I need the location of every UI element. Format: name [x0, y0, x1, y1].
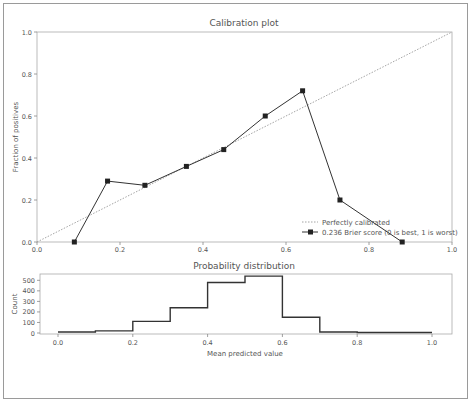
bottom-y-ticks: 0100200300400500 [23, 277, 40, 338]
y-tick-label: 0.6 [22, 113, 32, 121]
y-tick-label: 500 [23, 277, 35, 285]
y-tick-label: 400 [23, 287, 35, 295]
y-tick-label: 0 [31, 330, 35, 338]
calibration-plot: Calibration plot Fraction of positives 0… [12, 18, 458, 254]
calibration-plot-title: Calibration plot [209, 18, 279, 28]
data-point-marker [337, 198, 342, 203]
x-tick-label: 1.0 [447, 246, 457, 254]
x-tick-label: 0.0 [32, 246, 42, 254]
x-tick-label: 0.8 [364, 246, 374, 254]
x-tick-label: 0.0 [53, 339, 63, 347]
bottom-y-axis-label: Count [11, 293, 19, 314]
probability-distribution-plot: Probability distribution Count Mean pred… [11, 261, 452, 358]
top-x-ticks: 0.00.20.40.60.81.0 [32, 242, 457, 254]
data-point-marker [142, 183, 147, 188]
distribution-plot-title: Probability distribution [193, 261, 295, 271]
data-point-marker [400, 240, 405, 245]
data-point-marker [72, 240, 77, 245]
x-tick-label: 0.6 [281, 246, 291, 254]
legend-square-marker-icon [308, 230, 313, 235]
perfectly-calibrated-line [37, 32, 452, 242]
y-tick-label: 0.4 [22, 155, 32, 163]
y-tick-label: 100 [23, 319, 35, 327]
y-tick-label: 300 [23, 298, 35, 306]
data-point-marker [105, 179, 110, 184]
x-tick-label: 0.4 [202, 339, 212, 347]
legend: Perfectly calibrated 0.236 Brier score (… [302, 219, 458, 237]
top-y-ticks: 0.00.20.40.60.81.0 [22, 29, 37, 247]
y-tick-label: 1.0 [22, 29, 32, 37]
x-tick-label: 0.6 [277, 339, 287, 347]
calibration-figure: Calibration plot Fraction of positives 0… [0, 0, 473, 403]
data-point-marker [300, 88, 305, 93]
bottom-axes-box [40, 274, 452, 334]
x-tick-label: 0.8 [352, 339, 362, 347]
x-tick-label: 0.2 [128, 339, 138, 347]
data-point-marker [184, 164, 189, 169]
data-point-marker [221, 147, 226, 152]
y-tick-label: 200 [23, 308, 35, 316]
histogram-step-line [58, 276, 432, 332]
y-tick-label: 0.2 [22, 197, 32, 205]
legend-perfect-label: Perfectly calibrated [322, 219, 390, 227]
x-tick-label: 0.2 [115, 246, 125, 254]
y-tick-label: 0.0 [22, 239, 32, 247]
top-y-axis-label: Fraction of positives [12, 102, 20, 173]
bottom-x-axis-label: Mean predicted value [207, 350, 283, 358]
x-tick-label: 0.4 [198, 246, 208, 254]
x-tick-label: 1.0 [427, 339, 437, 347]
y-tick-label: 0.8 [22, 71, 32, 79]
legend-brier-label: 0.236 Brier score (0 is best, 1 is worst… [322, 229, 458, 237]
data-point-marker [263, 114, 268, 119]
bottom-x-ticks: 0.00.20.40.60.81.0 [53, 334, 437, 347]
